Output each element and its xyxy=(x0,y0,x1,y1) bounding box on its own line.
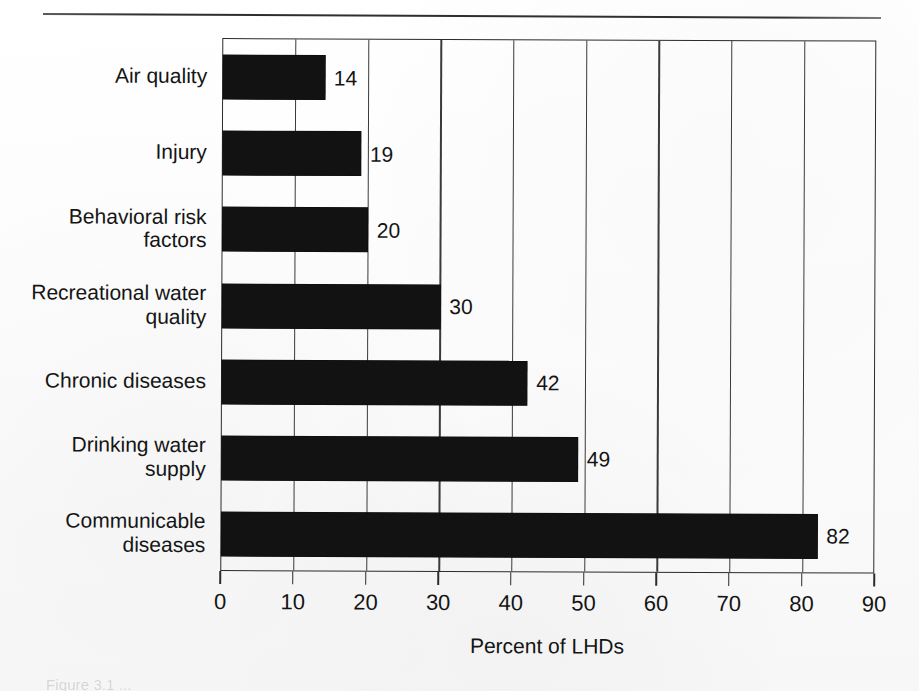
category-label: Chronic diseases xyxy=(11,368,221,392)
gridline-50 xyxy=(584,40,587,571)
category-axis-labels: Air qualityInjuryBehavioral riskfactorsR… xyxy=(0,37,222,571)
bar-value-label: 49 xyxy=(587,449,610,470)
plot-area: 14192030424982 xyxy=(220,38,876,574)
bar-row: 30 xyxy=(222,284,473,329)
gridline-60 xyxy=(657,41,660,572)
category-label-line: Injury xyxy=(12,139,207,163)
bar-value-label: 19 xyxy=(370,143,393,164)
category-label-line: Behavioral risk xyxy=(12,204,207,228)
figure-container: Air qualityInjuryBehavioral riskfactorsR… xyxy=(0,0,919,691)
category-label-line: supply xyxy=(11,456,206,480)
chart-skew-wrapper: Air qualityInjuryBehavioral riskfactorsR… xyxy=(0,0,919,691)
category-label-line: quality xyxy=(11,304,206,328)
bar xyxy=(221,512,817,558)
tick-label-30: 30 xyxy=(426,590,451,616)
category-label: Drinking watersupply xyxy=(11,433,221,481)
tick-label-0: 0 xyxy=(214,589,226,615)
x-axis-title: Percent of LHDs xyxy=(220,633,874,660)
tick-label-20: 20 xyxy=(353,590,378,616)
tick-label-50: 50 xyxy=(571,590,596,616)
gridline-40 xyxy=(511,40,514,571)
bar xyxy=(222,207,367,252)
tick-mark-90 xyxy=(873,574,875,587)
tick-mark-20 xyxy=(365,572,367,585)
tick-label-10: 10 xyxy=(281,589,306,615)
category-label-line: Air quality xyxy=(12,63,207,87)
tick-label-80: 80 xyxy=(789,591,814,617)
bar xyxy=(222,436,578,481)
x-axis-tick-marks xyxy=(220,571,874,588)
category-label-line: diseases xyxy=(10,532,205,556)
bar-value-label: 82 xyxy=(826,526,849,547)
bar xyxy=(222,360,527,405)
bar xyxy=(222,284,440,329)
category-label: Behavioral riskfactors xyxy=(11,204,221,252)
bar-row: 14 xyxy=(223,55,357,100)
tick-mark-60 xyxy=(655,573,657,586)
bar xyxy=(223,55,325,99)
tick-mark-30 xyxy=(437,572,439,585)
category-label-line: Recreational water xyxy=(11,280,206,304)
bar-value-label: 20 xyxy=(377,220,400,241)
category-label-line: factors xyxy=(11,228,206,252)
gridline-70 xyxy=(729,41,732,572)
tick-label-60: 60 xyxy=(644,591,669,617)
tick-mark-50 xyxy=(583,572,585,585)
tick-mark-80 xyxy=(801,573,803,586)
tick-label-70: 70 xyxy=(717,591,742,617)
bar-row: 49 xyxy=(222,436,611,481)
gridline-80 xyxy=(802,41,805,572)
bar-value-label: 14 xyxy=(334,67,357,88)
bar-row: 19 xyxy=(223,131,394,176)
tick-label-40: 40 xyxy=(499,590,524,616)
x-axis-tick-labels: 0102030405060708090 xyxy=(220,589,874,622)
bar-row: 82 xyxy=(221,512,849,558)
category-label-line: Drinking water xyxy=(11,433,206,457)
bar-value-label: 42 xyxy=(536,372,559,393)
tick-mark-10 xyxy=(292,571,294,584)
bar-row: 20 xyxy=(222,207,400,252)
bar-value-label: 30 xyxy=(449,296,472,317)
category-label-line: Communicable xyxy=(10,509,205,533)
category-label-line: Chronic diseases xyxy=(11,368,206,392)
tick-mark-0 xyxy=(219,571,221,584)
category-label: Injury xyxy=(12,139,222,163)
tick-mark-40 xyxy=(510,572,512,585)
bar xyxy=(223,131,361,176)
figure-caption: Figure 3.1 ... xyxy=(46,676,746,691)
tick-mark-70 xyxy=(728,573,730,586)
category-label: Recreational waterquality xyxy=(11,280,221,328)
bar-row: 42 xyxy=(222,360,560,405)
category-label: Communicablediseases xyxy=(10,509,220,557)
tick-label-90: 90 xyxy=(862,592,887,618)
category-label: Air quality xyxy=(12,63,222,87)
